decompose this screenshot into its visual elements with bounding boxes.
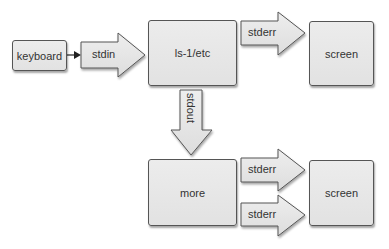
keyboard-connector-arrow [67, 51, 81, 59]
stdout-label: stdout [185, 91, 197, 125]
screen-top-label: screen [325, 48, 358, 60]
diagram-canvas: keyboard ls-1/etc screen more screen std… [0, 0, 389, 249]
stderr-top-label: stderr [248, 26, 276, 38]
keyboard-node: keyboard [12, 40, 67, 71]
screen-bottom-label: screen [325, 187, 358, 199]
stderr-bottom-2-label: stderr [248, 208, 276, 220]
more-node: more [148, 159, 237, 226]
ls-node: ls-1/etc [148, 20, 237, 86]
stdin-label: stdin [92, 48, 115, 60]
screen-bottom-node: screen [309, 160, 374, 226]
more-label: more [180, 187, 205, 199]
screen-top-node: screen [309, 21, 374, 86]
ls-label: ls-1/etc [175, 47, 210, 59]
keyboard-label: keyboard [17, 50, 62, 62]
stderr-bottom-1-label: stderr [248, 163, 276, 175]
